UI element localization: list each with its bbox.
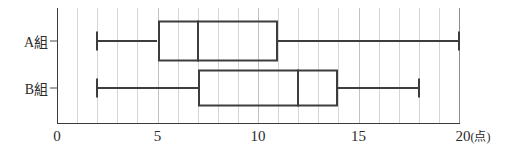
iqr-box-A組 (158, 21, 279, 62)
gridline-15 (359, 8, 360, 123)
x-tick-label-5: 5 (154, 126, 162, 146)
lower-whisker-line-B組 (97, 87, 198, 89)
upper-whisker-line-A組 (278, 40, 459, 42)
gridline-18 (419, 8, 420, 123)
max-whisker-cap-B組 (418, 79, 420, 98)
x-tick-label-10: 10 (251, 126, 266, 146)
boxplot-figure: A組B組 05101520(点) (0, 0, 510, 150)
x-tick-label-0: 0 (53, 126, 61, 146)
gridline-14 (338, 8, 339, 123)
x-axis-line (57, 123, 460, 124)
x-axis-unit-label: (点) (471, 130, 491, 144)
gridline-17 (399, 8, 400, 123)
y-category-tick-B組 (50, 88, 58, 89)
min-whisker-cap-A組 (96, 32, 98, 51)
min-whisker-cap-B組 (96, 79, 98, 98)
gridline-4 (137, 8, 138, 123)
gridline-3 (117, 8, 118, 123)
x-tick-value: 20 (456, 128, 471, 144)
x-tick-label-15: 15 (351, 126, 366, 146)
gridline-1 (77, 8, 78, 123)
y-category-tick-A組 (50, 41, 58, 42)
iqr-box-B組 (198, 70, 339, 107)
gridline-2 (97, 8, 98, 123)
y-axis-line (57, 8, 58, 124)
upper-whisker-line-B組 (338, 87, 418, 89)
y-category-label-B組: B組 (25, 78, 49, 98)
lower-whisker-line-A組 (97, 40, 157, 42)
median-line-B組 (297, 70, 299, 107)
gridline-16 (379, 8, 380, 123)
plot-right-border (459, 8, 460, 124)
max-whisker-cap-A組 (458, 32, 460, 51)
median-line-A組 (197, 21, 199, 62)
y-category-label-A組: A組 (24, 31, 49, 51)
x-tick-label-20: 20(点) (456, 126, 491, 147)
gridline-19 (439, 8, 440, 123)
